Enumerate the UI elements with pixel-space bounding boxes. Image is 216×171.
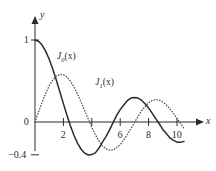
- y-axis-arrow-icon: [32, 16, 39, 24]
- x-axis-label: x: [206, 116, 210, 126]
- x-axis-arrow-icon: [196, 119, 204, 126]
- y-tick-label-1: 1: [24, 35, 29, 45]
- y-axis-label: y: [40, 10, 44, 20]
- x-tick-label-10: 10: [172, 130, 182, 140]
- y-tick-label-neg0_4: −0.4: [8, 150, 26, 160]
- curve-annotation-j1: J1(x): [95, 78, 114, 89]
- x-tick-label-2: 2: [61, 130, 66, 140]
- x-tick-label-8: 8: [146, 130, 151, 140]
- curve-annotation-j0: J0(x): [57, 52, 76, 63]
- x-tick-label-6: 6: [118, 130, 123, 140]
- bessel-function-figure: y x 2681010−0.4 J0(x)J1(x): [0, 0, 216, 171]
- y-tick-label-0: 0: [24, 117, 29, 127]
